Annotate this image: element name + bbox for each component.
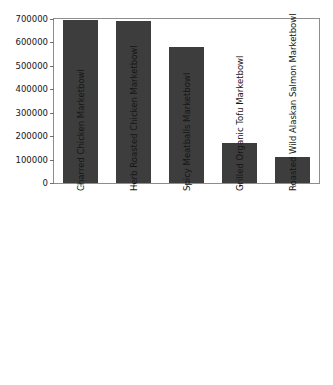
plot-axes: 0100000200000300000400000500000600000700… (53, 18, 320, 184)
x-tick-label: Roasted Wild Alaskan Salmon Marketbowl (288, 13, 297, 191)
x-tick-label: Spicy Meatballs Marketbowl (182, 73, 191, 191)
x-tick-label: Herb Roasted Chicken Marketbowl (129, 45, 138, 191)
y-tick-mark (50, 160, 54, 161)
x-tick-label: Grilled Organic Tofu Marketbowl (235, 56, 244, 191)
y-tick-label: 500000 (16, 62, 48, 71)
y-tick-mark (50, 136, 54, 137)
y-tick-mark (50, 183, 54, 184)
y-tick-label: 400000 (16, 85, 48, 94)
y-tick-mark (50, 66, 54, 67)
y-tick-mark (50, 113, 54, 114)
y-tick-label: 700000 (16, 15, 48, 24)
y-tick-label: 200000 (16, 132, 48, 141)
y-tick-mark (50, 42, 54, 43)
bar-chart-figure: 0100000200000300000400000500000600000700… (0, 0, 333, 385)
x-tick-label: Charred Chicken Marketbowl (76, 69, 85, 191)
y-tick-mark (50, 89, 54, 90)
y-tick-label: 300000 (16, 108, 48, 117)
y-tick-label: 100000 (16, 155, 48, 164)
y-tick-label: 600000 (16, 38, 48, 47)
y-tick-label: 0 (43, 179, 48, 188)
y-tick-mark (50, 19, 54, 20)
